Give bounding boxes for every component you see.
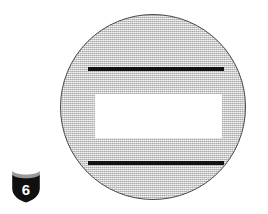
center-panel bbox=[95, 94, 222, 138]
diagram-canvas: 6 bbox=[0, 0, 268, 214]
shield-route-number: 6 bbox=[22, 181, 30, 198]
bottom-bar bbox=[88, 161, 224, 165]
interstate-shield: 6 bbox=[11, 170, 41, 203]
top-bar bbox=[88, 67, 224, 71]
